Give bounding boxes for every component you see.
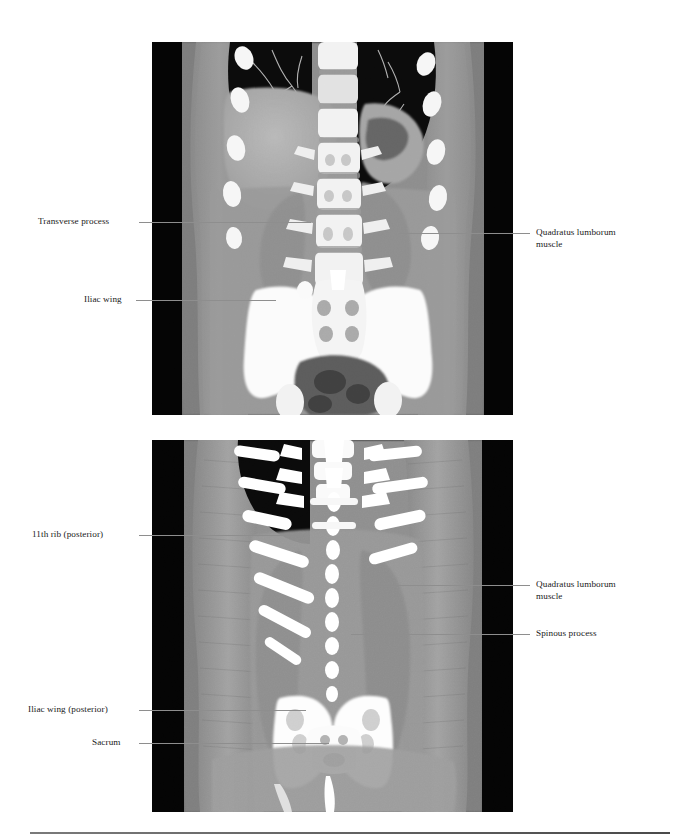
leader-eleventh-rib-posterior [139,535,300,536]
label-eleventh-rib-posterior-text: 11th rib (posterior) [32,529,103,539]
label-iliac-wing-posterior-text: Iliac wing (posterior) [28,704,108,714]
ct-panel-top [152,42,513,415]
label-sacrum: Sacrum [92,737,121,749]
leader-iliac-wing-posterior [139,710,306,711]
leader-quadratus-lumborum-top [399,233,530,234]
leader-sacrum [139,743,329,744]
label-iliac-wing: Iliac wing [84,294,122,306]
ct-panel-bottom [152,440,513,812]
ct-image-coronal-anterior [152,42,513,415]
label-sacrum-text: Sacrum [92,737,121,747]
footer-rule [30,832,670,834]
label-quadratus-lumborum-bottom: Quadratus lumborum muscle [536,579,616,602]
leader-quadratus-lumborum-bottom [371,585,530,586]
label-iliac-wing-text: Iliac wing [84,294,122,304]
label-quadratus-lumborum-bottom-line2: muscle [536,591,616,603]
label-quadratus-lumborum-top: Quadratus lumborum muscle [536,227,616,250]
label-transverse-process: Transverse process [38,216,109,228]
leader-iliac-wing [136,300,276,301]
label-quadratus-lumborum-top-line2: muscle [536,239,616,251]
label-spinous-process-text: Spinous process [536,628,597,638]
label-iliac-wing-posterior: Iliac wing (posterior) [28,704,108,716]
label-eleventh-rib-posterior: 11th rib (posterior) [32,529,103,541]
label-transverse-process-text: Transverse process [38,216,109,226]
label-quadratus-lumborum-bottom-line1: Quadratus lumborum [536,579,616,589]
label-spinous-process: Spinous process [536,628,597,640]
ct-image-coronal-posterior [152,440,513,812]
figure-page: Transverse process Iliac wing Quadratus … [0,0,679,840]
leader-spinous-process [351,634,530,635]
label-quadratus-lumborum-top-line1: Quadratus lumborum [536,227,616,237]
leader-transverse-process [139,222,311,223]
